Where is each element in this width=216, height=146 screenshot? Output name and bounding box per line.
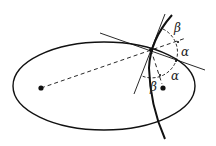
arc-tick-upper: [177, 41, 179, 43]
arc-tick-right: [175, 60, 177, 62]
label-beta-top: β: [173, 21, 181, 35]
intersection-point: [149, 48, 153, 52]
right-focus-point: [160, 85, 165, 90]
diagram-canvas: β α α β: [0, 0, 216, 146]
label-alpha-lower: α: [171, 69, 179, 83]
label-beta-bottom: β: [149, 80, 157, 94]
label-alpha-upper: α: [181, 45, 189, 59]
arc-tick-lower: [159, 74, 161, 76]
focal-ray-right-dashed: [151, 50, 162, 84]
focal-ray-left-dashed: [41, 38, 186, 88]
